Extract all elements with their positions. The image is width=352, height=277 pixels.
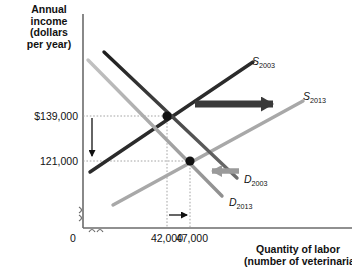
origin-label: 0	[70, 232, 76, 244]
curve-label-supply-2003-year: 2003	[259, 61, 275, 70]
axis-lines	[83, 14, 352, 228]
equilibrium-point-2013	[185, 156, 194, 165]
chart-figure: Annual income (dollars per year) $139,00…	[0, 0, 352, 277]
curve-label-supply-2013-letter: S	[303, 90, 310, 102]
curve-label-demand-2003-year: 2003	[252, 179, 268, 188]
curve-demand-2013	[88, 60, 222, 196]
x-axis-title-line-1: Quantity of labor	[244, 243, 352, 255]
curve-label-supply-2013: S2013	[303, 90, 326, 105]
x-axis-title-line-2: (number of veterinarians)	[244, 255, 352, 267]
y-axis-title-line-1: Annual	[16, 4, 82, 16]
y-axis-title: Annual income (dollars per year)	[16, 4, 82, 50]
curve-label-demand-2013-letter: D	[229, 196, 237, 208]
curve-label-demand-2013-year: 2013	[237, 202, 253, 211]
curve-label-supply-2003-letter: S	[252, 55, 259, 67]
curve-label-demand-2003: D2003	[244, 173, 268, 188]
x-tick-label-47000: 47,000	[162, 232, 222, 244]
equilibrium-point-2003	[162, 111, 171, 120]
curve-label-demand-2013: D2013	[229, 196, 253, 211]
y-tick-label-139000: $139,000	[10, 110, 78, 122]
y-tick-label-121000: 121,000	[10, 155, 78, 167]
curve-label-supply-2013-year: 2013	[310, 96, 326, 105]
x-axis-title: Quantity of labor (number of veterinaria…	[244, 243, 352, 267]
y-axis-title-line-4: per year)	[16, 39, 82, 51]
curve-label-demand-2003-letter: D	[244, 173, 252, 185]
curve-label-supply-2003: S2003	[252, 55, 275, 70]
